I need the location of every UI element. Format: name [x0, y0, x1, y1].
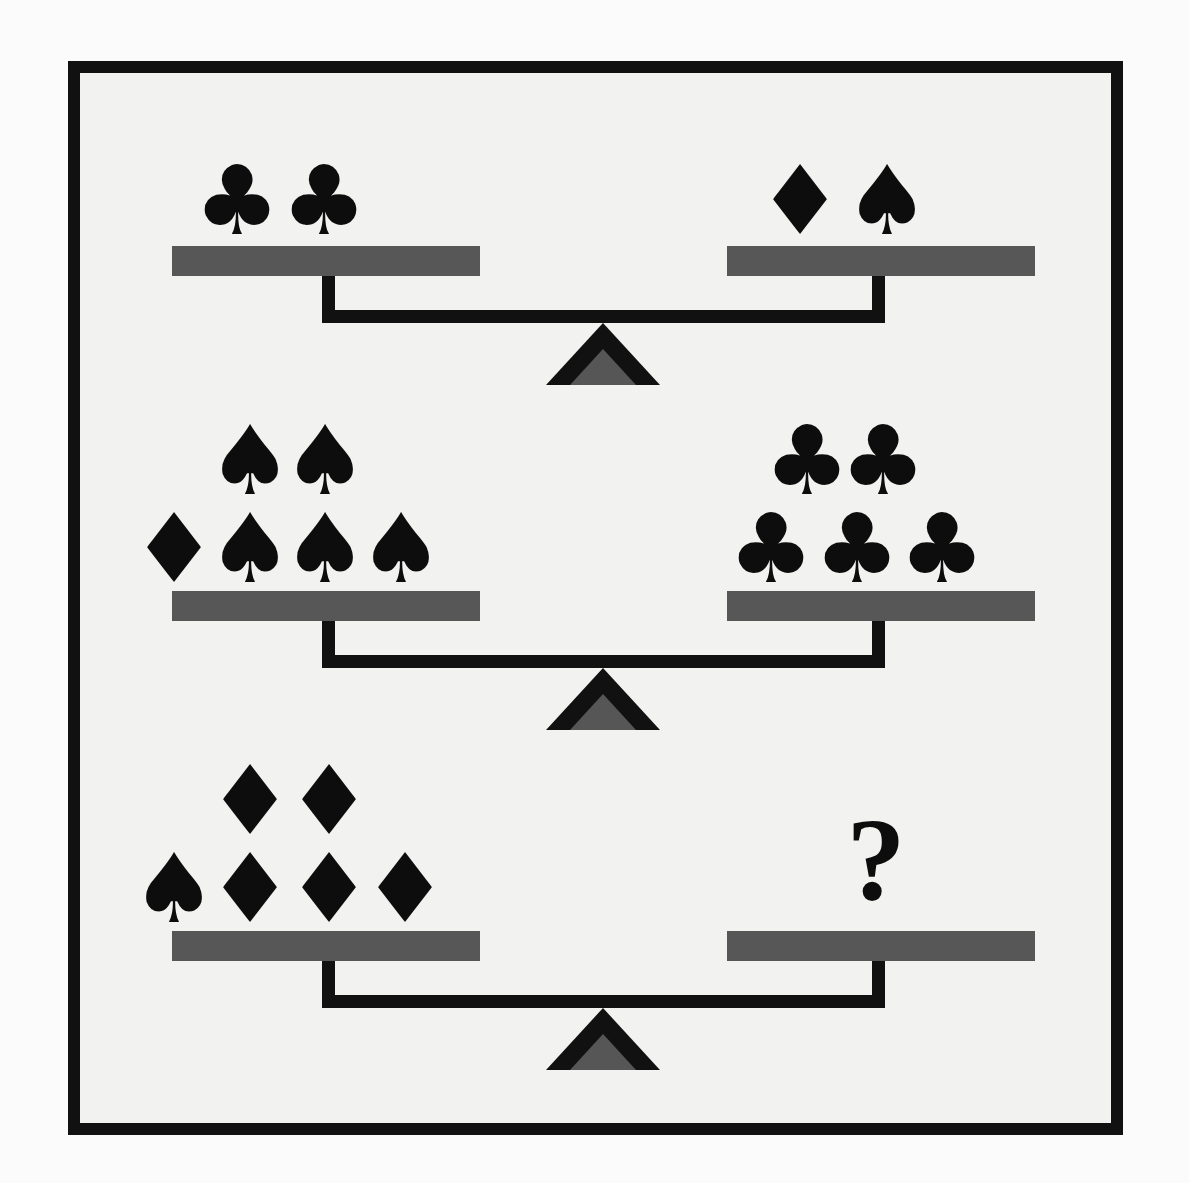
club-icon: ♣: [723, 501, 819, 597]
club-icon: ♣: [809, 501, 905, 597]
puzzle-frame: ♣ ♣ ♦ ♠ ♠ ♠ ♦ ♠ ♠: [68, 61, 1123, 1135]
fulcrum-fill: [570, 349, 636, 385]
puzzle-canvas: ♣ ♣ ♦ ♠ ♠ ♠ ♦ ♠ ♠: [0, 0, 1189, 1183]
balance-2-left-pan[interactable]: [172, 591, 480, 621]
diamond-icon: ♦: [357, 841, 453, 937]
balance-3-beam: [322, 995, 885, 1008]
spade-icon: ♠: [839, 153, 935, 249]
balance-1-left-pan[interactable]: [172, 246, 480, 276]
balance-2-right-pan[interactable]: [727, 591, 1035, 621]
spade-icon: ♠: [353, 501, 449, 597]
balance-3-right-pan[interactable]: [727, 931, 1035, 961]
fulcrum-fill: [570, 694, 636, 730]
club-icon: ♣: [189, 153, 285, 249]
club-icon: ♣: [894, 501, 990, 597]
club-icon: ♣: [276, 153, 372, 249]
balance-2-beam: [322, 655, 885, 668]
balance-1-beam: [322, 310, 885, 323]
balance-3-left-pan[interactable]: [172, 931, 480, 961]
unknown-question-mark[interactable]: ?: [828, 801, 924, 919]
fulcrum-fill: [570, 1034, 636, 1070]
balance-1-right-pan[interactable]: [727, 246, 1035, 276]
diamond-icon: ♦: [752, 153, 848, 249]
